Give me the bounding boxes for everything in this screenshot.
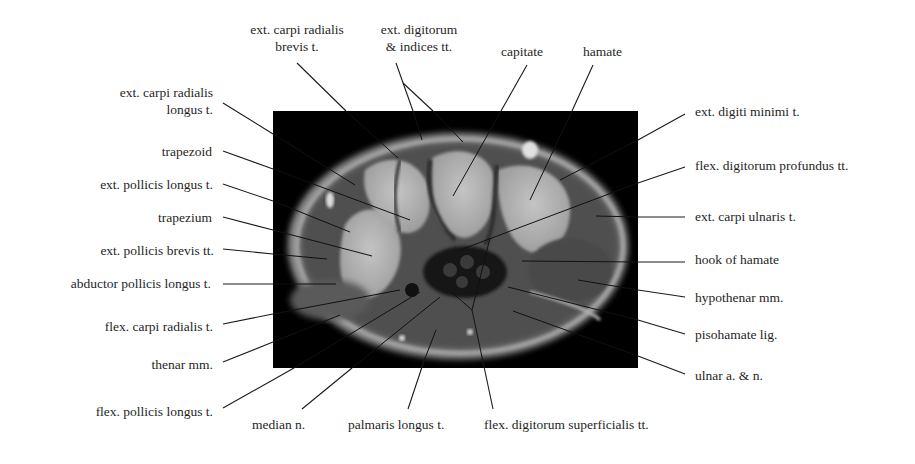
label-line: ext. carpi radialis [120, 84, 213, 101]
label-hook-of-hamate: hook of hamate [695, 251, 779, 268]
label-text: hypothenar mm. [695, 290, 783, 305]
label-text: abductor pollicis longus t. [71, 276, 211, 291]
label-hypothenar: hypothenar mm. [695, 289, 783, 306]
label-ext-pollicis-brevis: ext. pollicis brevis tt. [100, 242, 214, 259]
label-text: ext. pollicis longus t. [100, 177, 213, 192]
label-text: palmaris longus t. [348, 417, 444, 432]
label-text: flex. digitorum profundus tt. [695, 158, 848, 173]
label-text: capitate [501, 44, 543, 59]
label-ext-pollicis-longus: ext. pollicis longus t. [100, 176, 213, 193]
label-text: ext. carpi ulnaris t. [695, 209, 796, 224]
label-line: & indices tt. [369, 38, 469, 55]
wrist-mri-figure: ext. carpi radialis brevis t. ext. digit… [0, 0, 915, 464]
label-text: hook of hamate [695, 252, 779, 267]
label-ext-carpi-ulnaris: ext. carpi ulnaris t. [695, 208, 796, 225]
label-median-nerve: median n. [252, 416, 305, 433]
mri-image [273, 111, 638, 368]
mri-image-and-leaders [0, 0, 915, 464]
label-text: trapezium [158, 210, 212, 225]
label-text: pisohamate lig. [695, 327, 777, 342]
label-line: longus t. [120, 101, 213, 118]
label-line: ext. digitorum [369, 21, 469, 38]
label-ext-digiti-minimi: ext. digiti minimi t. [695, 103, 800, 120]
label-text: flex. carpi radialis t. [105, 319, 213, 334]
label-pisohamate-lig: pisohamate lig. [695, 326, 777, 343]
label-ulnar-artery-nerve: ulnar a. & n. [695, 367, 763, 384]
label-line: ext. carpi radialis [222, 21, 372, 38]
label-trapezium: trapezium [158, 209, 212, 226]
label-ext-digitorum-indices: ext. digitorum & indices tt. [369, 21, 469, 55]
label-text: ulnar a. & n. [695, 368, 763, 383]
label-text: ext. digiti minimi t. [695, 104, 800, 119]
label-hamate: hamate [583, 43, 622, 60]
label-text: flex. pollicis longus t. [96, 404, 213, 419]
label-capitate: capitate [501, 43, 543, 60]
label-thenar: thenar mm. [152, 356, 213, 373]
label-text: hamate [583, 44, 622, 59]
label-text: flex. digitorum superficialis tt. [484, 417, 649, 432]
label-trapezoid: trapezoid [162, 143, 212, 160]
label-flex-digitorum-profundus: flex. digitorum profundus tt. [695, 157, 848, 174]
label-flex-digitorum-superficialis: flex. digitorum superficialis tt. [484, 416, 649, 433]
label-line: brevis t. [222, 38, 372, 55]
label-text: ext. pollicis brevis tt. [100, 243, 214, 258]
label-flex-carpi-radialis: flex. carpi radialis t. [105, 318, 213, 335]
label-abductor-pollicis-longus: abductor pollicis longus t. [71, 275, 211, 292]
label-flex-pollicis-longus: flex. pollicis longus t. [96, 403, 213, 420]
label-text: thenar mm. [152, 357, 213, 372]
label-ext-carpi-radialis-brevis: ext. carpi radialis brevis t. [222, 21, 372, 55]
label-text: median n. [252, 417, 305, 432]
label-ext-carpi-radialis-longus: ext. carpi radialis longus t. [120, 84, 213, 118]
label-text: trapezoid [162, 144, 212, 159]
label-palmaris-longus: palmaris longus t. [348, 416, 444, 433]
